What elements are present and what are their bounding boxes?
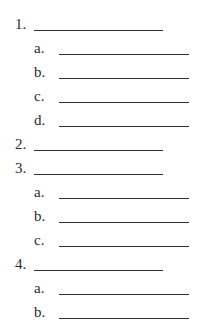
- item-label: b.: [34, 65, 45, 80]
- blank-line[interactable]: [59, 222, 189, 223]
- blank-line[interactable]: [59, 126, 189, 127]
- outline-item-1d: d.: [0, 113, 206, 133]
- item-label: 3.: [15, 161, 26, 176]
- item-label: 1.: [15, 17, 26, 32]
- item-label: 2.: [15, 137, 26, 152]
- outline-item-1a: a.: [0, 41, 206, 61]
- outline-item-3a: a.: [0, 185, 206, 205]
- item-label: d.: [34, 113, 45, 128]
- blank-line[interactable]: [59, 294, 189, 295]
- blank-line[interactable]: [59, 318, 189, 319]
- item-label: c.: [34, 89, 44, 104]
- outline-item-1b: b.: [0, 65, 206, 85]
- outline-item-3b: b.: [0, 209, 206, 229]
- outline-item-4: 4.: [0, 257, 206, 277]
- item-label: a.: [34, 41, 44, 56]
- blank-line[interactable]: [59, 78, 189, 79]
- blank-line[interactable]: [34, 150, 163, 151]
- item-label: a.: [34, 185, 44, 200]
- item-label: a.: [34, 281, 44, 296]
- item-label: 4.: [15, 257, 26, 272]
- outline-item-3c: c.: [0, 233, 206, 253]
- blank-line[interactable]: [59, 246, 189, 247]
- blank-line[interactable]: [34, 270, 163, 271]
- item-label: b.: [34, 209, 45, 224]
- outline-item-4b: b.: [0, 305, 206, 325]
- outline-item-2: 2.: [0, 137, 206, 157]
- blank-line[interactable]: [59, 54, 189, 55]
- outline-item-1c: c.: [0, 89, 206, 109]
- blank-line[interactable]: [59, 198, 189, 199]
- item-label: b.: [34, 305, 45, 320]
- outline-item-1: 1.: [0, 17, 206, 37]
- blank-line[interactable]: [59, 102, 189, 103]
- outline-item-4a: a.: [0, 281, 206, 301]
- item-label: c.: [34, 233, 44, 248]
- blank-line[interactable]: [34, 30, 163, 31]
- blank-line[interactable]: [34, 174, 163, 175]
- outline-item-3: 3.: [0, 161, 206, 181]
